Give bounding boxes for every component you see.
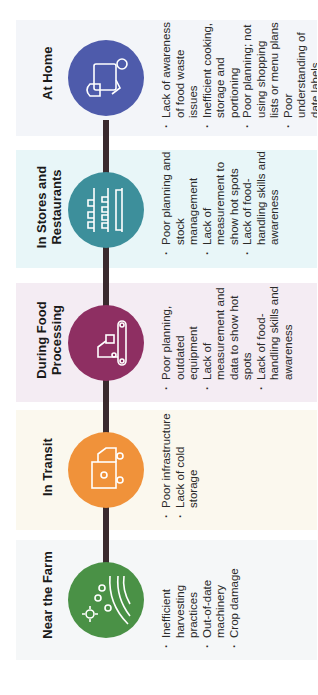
groceries-icon	[68, 40, 144, 116]
farm-field-icon	[68, 562, 144, 638]
stage-bullets-home: Lack of awareness of food waste issues I…	[160, 20, 317, 128]
stage-circle-transit	[68, 432, 144, 508]
bullet-item: Lack of cold storage	[174, 413, 201, 518]
stage-title-transit: In Transit	[40, 446, 55, 496]
store-shelves-icon	[68, 172, 144, 248]
stage-bullets-farm: Inefficient harvesting practices Out-of-…	[160, 536, 241, 648]
bullet-item: Poor planning and stock management	[160, 150, 201, 255]
bullet-item: Poor planning; not using shopping lists …	[241, 20, 282, 128]
stage-circle-stores	[68, 172, 144, 248]
bullet-item: Lack of food-handling skills and awarene…	[255, 285, 296, 390]
delivery-truck-icon	[68, 432, 144, 508]
stage-bullets-processing: Poor planning, outdated equipment Lack o…	[160, 285, 295, 390]
conveyor-robot-icon	[68, 305, 144, 381]
bullet-item: Lack of food-handling skills and awarene…	[241, 150, 282, 255]
bullet-item: Crop damage	[228, 536, 242, 648]
bullet-item: Lack of measurement to show hot spots	[201, 150, 242, 255]
bullet-item: Lack of awareness of food waste issues	[160, 20, 201, 128]
stage-title-farm: Near the Farm	[40, 550, 55, 640]
bullet-item: Poor infrastructure	[160, 413, 174, 518]
bullet-item: Lack of measurement and data to show hot…	[201, 285, 255, 390]
stage-title-stores: In Stores and Restaurants	[34, 162, 64, 252]
stage-circle-processing	[68, 305, 144, 381]
bullet-item: Out-of-date machinery	[201, 536, 228, 648]
stage-circle-home	[68, 40, 144, 116]
stage-circle-farm	[68, 562, 144, 638]
bullet-item: Inefficient cooking, storage and portion…	[201, 20, 242, 128]
stage-bullets-stores: Poor planning and stock management Lack …	[160, 150, 282, 255]
bullet-item: Inefficient harvesting practices	[160, 536, 201, 648]
stage-bullets-transit: Poor infrastructure Lack of cold storage	[160, 413, 201, 518]
stage-title-home: At Home	[40, 50, 55, 100]
bullet-item: Poor planning, outdated equipment	[160, 285, 201, 390]
bullet-item: Poor understanding of date labels	[282, 20, 318, 128]
stage-title-processing: During Food Processing	[34, 300, 64, 380]
